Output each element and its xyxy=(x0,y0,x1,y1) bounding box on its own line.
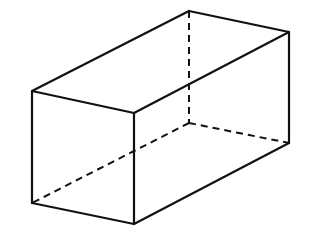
edge-front-top-left-to-front-top-right xyxy=(32,91,134,113)
hidden-edge-back-bottom-left-to-back-bottom-right xyxy=(189,123,289,143)
prism-diagram xyxy=(0,0,310,237)
edge-back-top-left-to-back-top-right xyxy=(189,11,289,32)
hidden-edges xyxy=(32,11,289,203)
edge-back-bottom-right-to-front-bottom-right xyxy=(134,143,289,224)
hidden-edge-back-bottom-left-to-front-bottom-left xyxy=(32,123,189,203)
edge-back-top-right-to-front-top-right xyxy=(134,32,289,113)
edge-front-bottom-right-to-front-bottom-left xyxy=(32,203,134,224)
visible-edges xyxy=(32,11,289,224)
rectangular-prism-drawing xyxy=(0,0,310,237)
edge-front-top-left-to-back-top-left xyxy=(32,11,189,91)
